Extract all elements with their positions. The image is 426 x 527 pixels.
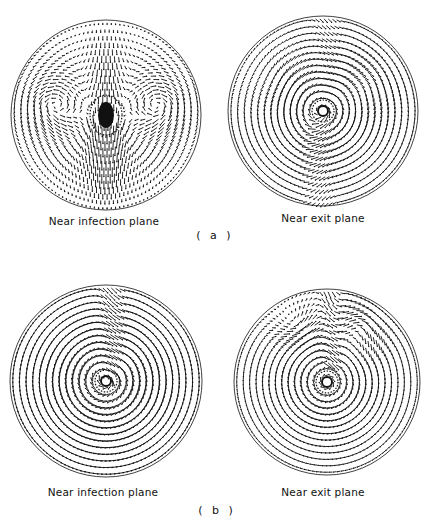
pipe-wall-circle <box>234 289 420 475</box>
plot-label-a-left: Near infection plane <box>49 215 160 227</box>
velocity-vectors <box>236 292 418 473</box>
velocity-vectors <box>12 288 200 475</box>
pipe-wall-circle <box>228 16 418 206</box>
vector-plot-a-right <box>222 10 424 212</box>
plot-label-b-left: Near infection plane <box>48 486 159 498</box>
plot-label-a-right: Near exit plane <box>281 212 364 224</box>
vortex-core-marker <box>322 377 332 387</box>
plot-label-b-right: Near exit plane <box>281 486 364 498</box>
vector-plot-a-left <box>5 14 207 216</box>
vortex-core-marker <box>101 376 111 386</box>
caption-a: ( a ) <box>196 229 233 242</box>
vortex-core-marker <box>99 103 113 127</box>
vortex-core-marker <box>318 106 328 116</box>
velocity-vectors <box>230 19 415 208</box>
inner-streamline-ring <box>312 100 334 122</box>
caption-b: ( b ) <box>198 504 236 517</box>
vector-plot-b-right <box>228 283 426 481</box>
vector-plot-b-left <box>4 279 208 483</box>
